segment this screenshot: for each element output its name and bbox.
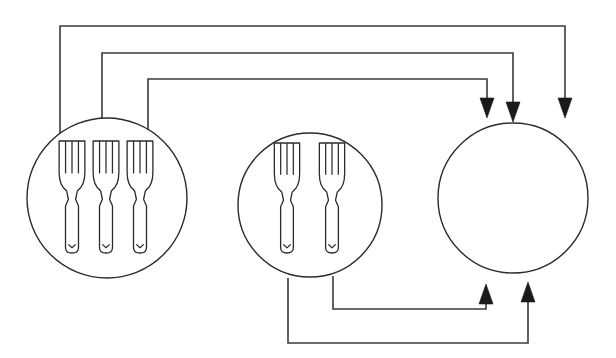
diagram-svg [0,0,616,358]
arrowhead-edge-top-outer [558,98,572,118]
arrowhead-edge-bottom-inner [479,284,493,304]
node-plate-left[interactable] [27,118,187,278]
plate-circle-plate-right[interactable] [438,123,588,273]
arrowhead-edge-top-middle [506,102,520,122]
plate-circle-plate-middle[interactable] [238,133,382,277]
node-plate-middle[interactable] [238,133,382,277]
diagram-canvas [0,0,616,358]
connector-edge-bottom-outer [288,278,528,343]
node-plate-right[interactable] [438,123,588,273]
connector-edge-bottom-inner [333,276,486,309]
nodes-layer [27,118,588,278]
arrowhead-edge-top-inner [480,98,494,118]
arrowhead-edge-bottom-outer [521,282,535,302]
